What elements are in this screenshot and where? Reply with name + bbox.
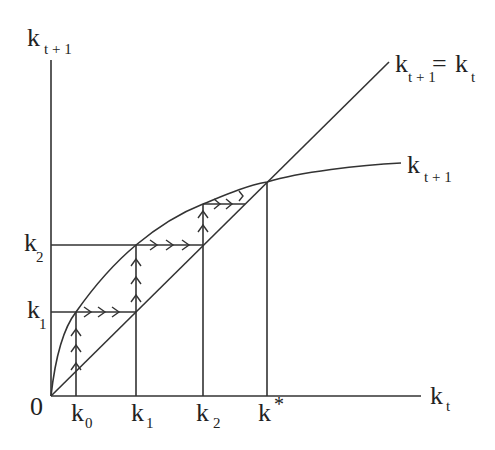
origin-label: 0 — [30, 392, 43, 421]
x-axis-label: kt — [430, 381, 451, 414]
y-axis-label: kt + 1 — [27, 23, 72, 57]
y-tick-k1: k1 — [27, 295, 47, 332]
curve-label: kt + 1 — [407, 150, 452, 185]
diagram-svg: kt + 1 kt 0 kt + 1=kt kt + 1 k0 k1 k2 k*… — [0, 0, 495, 450]
x-tick-k0: k0 — [71, 398, 93, 431]
x-tick-k1: k1 — [131, 398, 154, 431]
transition-curve — [51, 163, 401, 396]
line-45-label: kt + 1=kt — [395, 49, 476, 85]
line-45-degree — [51, 62, 389, 396]
x-tick-k2: k2 — [196, 398, 221, 431]
y-tick-k2: k2 — [24, 228, 44, 265]
solow-diagram: kt + 1 kt 0 kt + 1=kt kt + 1 k0 k1 k2 k*… — [0, 0, 495, 450]
x-tick-kstar: k* — [258, 393, 284, 427]
